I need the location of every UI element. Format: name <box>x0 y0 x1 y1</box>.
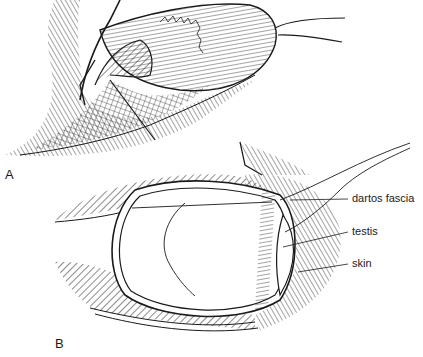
panel-a-drawing <box>5 0 345 156</box>
callout-skin: skin <box>352 258 372 269</box>
callout-dartos-fascia: dartos fascia <box>352 193 414 204</box>
panel-label-a: A <box>5 168 14 181</box>
callout-testis: testis <box>352 226 378 237</box>
illustration-drawing <box>0 0 423 357</box>
panel-label-b: B <box>55 337 64 350</box>
medical-illustration: A B dartos fascia testis skin <box>0 0 423 357</box>
